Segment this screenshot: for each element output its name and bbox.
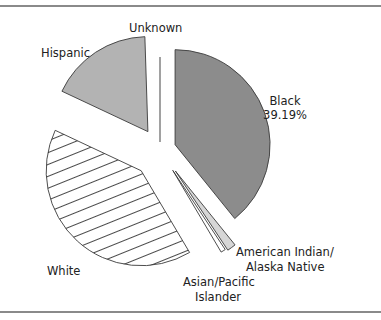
- label-american-indian-line1: American Indian/: [236, 245, 334, 259]
- label-hispanic: Hispanic: [41, 46, 90, 60]
- label-american-indian-line2: Alaska Native: [246, 260, 325, 274]
- label-black: Black: [269, 94, 300, 108]
- label-asian-line2: Islander: [195, 290, 241, 304]
- pie-chart: Unknown Hispanic Black 39.19% American I…: [0, 0, 381, 320]
- label-unknown: Unknown: [129, 21, 182, 35]
- label-asian-line1: Asian/Pacific: [183, 275, 255, 289]
- slice-black: [175, 50, 270, 219]
- label-white: White: [47, 264, 80, 278]
- label-black-value: 39.19%: [263, 108, 307, 122]
- slice-white: [46, 130, 189, 265]
